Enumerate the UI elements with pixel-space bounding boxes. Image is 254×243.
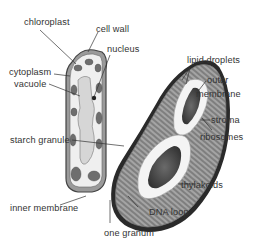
label-thylakoids: thylakoids — [181, 180, 223, 190]
label-inner-membrane: inner membrane — [10, 203, 78, 213]
label-starch-granule: starch granule — [10, 135, 70, 145]
label-one-granum: one granum — [104, 228, 154, 238]
label-dna-loop: DNA loop — [149, 207, 189, 217]
label-cytoplasm: cytoplasm — [9, 67, 51, 77]
label-outer-membrane-line2: membrane — [196, 89, 241, 99]
label-cell-wall: cell wall — [96, 24, 129, 34]
label-stroma: stroma — [211, 115, 240, 125]
label-nucleus: nucleus — [107, 44, 139, 54]
label-vacuole: vacuole — [14, 79, 46, 89]
label-outer-membrane-line1: outer — [207, 75, 228, 85]
label-chloroplast: chloroplast — [24, 17, 70, 27]
plant-cell — [66, 50, 107, 192]
label-ribosomes: ribosomes — [200, 132, 243, 142]
diagram-canvas: chloroplast cell wall nucleus cytoplasm … — [0, 0, 254, 243]
label-lipid-droplets: lipid droplets — [187, 55, 240, 65]
